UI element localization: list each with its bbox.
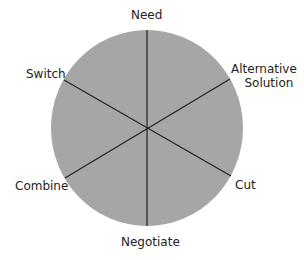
wheel-diagram (0, 0, 304, 260)
label-negotiate: Negotiate (121, 235, 180, 249)
label-alternative: Alternative (231, 62, 297, 76)
label-need: Need (131, 8, 162, 22)
label-switch: Switch (26, 67, 66, 81)
label-combine: Combine (15, 179, 68, 193)
label-cut: Cut (235, 178, 256, 192)
label-solution: Solution (231, 76, 297, 90)
label-alternative-solution: Alternative Solution (231, 62, 297, 90)
